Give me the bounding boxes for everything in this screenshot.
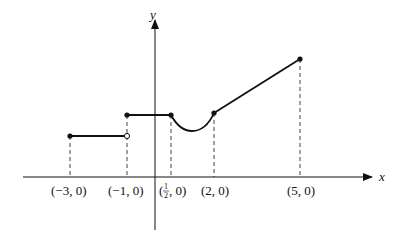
- svg-text:(: (: [159, 183, 163, 198]
- svg-text:2: 2: [164, 191, 168, 200]
- closed-point-five: [297, 56, 302, 61]
- segment-linear: [214, 59, 300, 113]
- closed-point-neg1: [124, 112, 129, 117]
- x-axis-label: x: [378, 169, 385, 184]
- tick-label-neg3: (−3, 0): [51, 183, 87, 198]
- open-point-neg1: [124, 133, 129, 138]
- tick-label-two: (2, 0): [201, 183, 229, 198]
- segment-curve: [171, 113, 214, 131]
- y-axis-label: y: [148, 7, 156, 22]
- tick-label-five: (5, 0): [287, 183, 315, 198]
- svg-text:1: 1: [164, 182, 168, 191]
- closed-point-neg3: [67, 133, 72, 138]
- closed-point-two: [211, 110, 216, 115]
- tick-label-neg1: (−1, 0): [108, 183, 144, 198]
- function-graph: x y (−3, 0) (−1, 0) ( 1 2 , 0) (2, 0) (5…: [0, 0, 405, 237]
- tick-label-half: ( 1 2 , 0): [159, 182, 186, 200]
- dashed-guides: [70, 59, 300, 177]
- closed-point-half: [168, 112, 173, 117]
- svg-text:, 0): , 0): [169, 183, 186, 198]
